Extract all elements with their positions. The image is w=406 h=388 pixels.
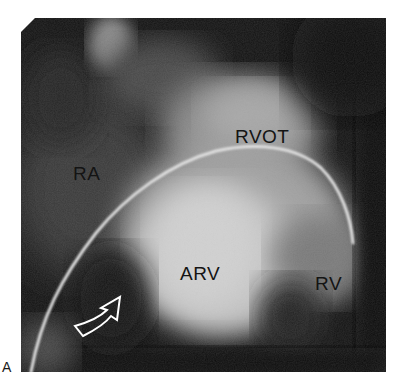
label-rvot: RVOT [235, 127, 289, 146]
label-ra: RA [73, 164, 100, 183]
label-arv: ARV [180, 264, 220, 283]
panel-letter: A [2, 360, 11, 374]
figure: RVOT RA ARV RV A [0, 0, 406, 388]
label-rv: RV [315, 274, 342, 293]
angiogram-image [21, 18, 386, 372]
